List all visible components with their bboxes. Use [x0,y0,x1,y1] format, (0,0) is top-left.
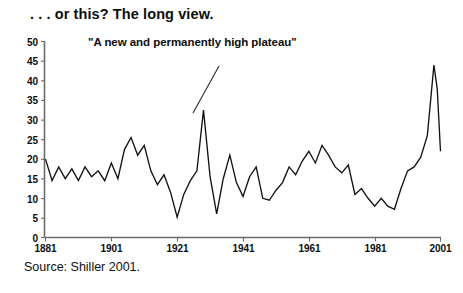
x-tick-labels: 1881 1901 1921 1941 1961 1981 2001 [34,243,452,254]
data-series-line [46,65,441,217]
y-tick-label: 35 [27,95,39,106]
annotation-leader-line [193,66,219,113]
y-tick-label: 45 [27,56,39,67]
x-tick-label: 1921 [166,243,189,254]
y-tick-label: 5 [32,213,38,224]
y-tick-label: 20 [27,154,39,165]
y-tick-label: 10 [27,194,39,205]
chart-figure: . . . or this? The long view. "A new and… [0,0,463,293]
y-tick-label: 50 [27,37,39,48]
y-tick-label: 40 [27,76,39,87]
y-tick-label: 15 [27,174,39,185]
x-tick-label: 2001 [429,243,452,254]
line-chart-plot: 50 45 40 35 30 25 20 15 10 5 0 [0,0,463,293]
x-tick-label: 1941 [232,243,255,254]
y-tick-labels: 50 45 40 35 30 25 20 15 10 5 0 [27,37,39,244]
x-tick-label: 1981 [364,243,387,254]
x-tick-label: 1961 [298,243,321,254]
source-note: Source: Shiller 2001. [24,260,140,274]
x-axis-group: 1881 1901 1921 1941 1961 1981 2001 [34,238,452,255]
x-tick-label: 1881 [34,243,57,254]
y-tick-label: 0 [32,233,38,244]
y-tick-label: 30 [27,115,39,126]
y-tick-label: 25 [27,135,39,146]
y-axis-group: 50 45 40 35 30 25 20 15 10 5 0 [27,37,45,244]
x-tick-label: 1901 [100,243,123,254]
